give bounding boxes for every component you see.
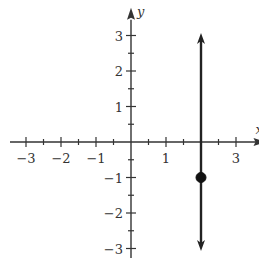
- y-tick-label: −2: [104, 206, 123, 221]
- filled-point: [196, 173, 206, 183]
- tick-labels: xy−3−2−113321−1−2−3: [16, 4, 259, 257]
- y-axis-arrow-icon: [127, 8, 135, 20]
- axes: [10, 8, 259, 258]
- y-axis-label: y: [136, 4, 145, 19]
- y-tick-label: 3: [115, 29, 123, 44]
- x-tick-label: −3: [16, 151, 35, 166]
- x-tick-label: 1: [162, 151, 170, 166]
- x-axis-label: x: [256, 122, 260, 137]
- x-tick-label: −2: [51, 151, 70, 166]
- y-tick-label: 2: [115, 64, 123, 79]
- y-tick-label: −1: [104, 171, 123, 186]
- points: [196, 173, 206, 183]
- coordinate-plane: xy−3−2−113321−1−2−3: [0, 0, 259, 258]
- y-tick-label: −3: [104, 242, 123, 257]
- x-tick-label: −1: [86, 151, 105, 166]
- y-tick-label: 1: [115, 100, 123, 115]
- x-tick-label: 3: [232, 151, 240, 166]
